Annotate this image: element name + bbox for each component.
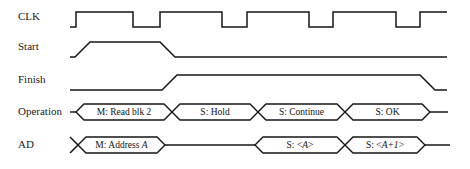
row-label-group: CLKStartFinishOperationAD [18,10,62,150]
row-label-clk: CLK [18,10,40,22]
operation-bus-label: S: Continue [279,107,324,117]
operation-bus-label: S: Hold [200,107,230,117]
row-label-operation: Operation [18,105,62,117]
row-label-ad: AD [18,138,34,150]
ad-bus-label: S: <A+1> [366,140,404,150]
waveform-group [70,12,450,153]
operation-bus-label: M: Read blk 2 [97,107,152,117]
waveform-start [70,42,447,57]
waveform-finish [70,75,447,90]
ad-bus-label: S: <A> [287,140,314,150]
ad-bus-label: M: Address A [95,140,147,150]
waveform-canvas: CLKStartFinishOperationAD M: Read blk 2S… [0,0,470,169]
row-label-finish: Finish [18,73,46,85]
operation-bus-label: S: OK [375,107,399,117]
ad-lead-cross [70,137,78,153]
timing-diagram: CLKStartFinishOperationAD M: Read blk 2S… [0,0,470,169]
waveform-clk [70,12,447,27]
row-label-start: Start [18,40,39,52]
